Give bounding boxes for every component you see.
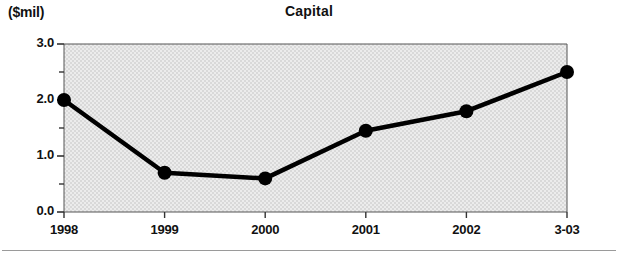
data-point-1998 (57, 93, 71, 107)
x-tick-label: 3-03 (527, 222, 607, 237)
x-tick-label: 2001 (326, 222, 406, 237)
capital-line-chart: ($mil) Capital 3.02.01.00.0 (0, 0, 618, 266)
data-point-1999 (158, 166, 172, 180)
y-axis-ticks (57, 44, 64, 212)
plot-background (64, 44, 567, 212)
data-point-2000 (258, 171, 272, 185)
y-tick-label: 2.0 (6, 91, 54, 106)
chart-page: ($mil) Capital 3.02.01.00.0 (0, 0, 618, 266)
x-tick-label: 2000 (225, 222, 305, 237)
y-tick-label: 3.0 (6, 35, 54, 50)
data-point-2001 (359, 124, 373, 138)
bottom-divider (2, 250, 616, 251)
x-tick-label: 1999 (125, 222, 205, 237)
x-axis-ticks (64, 212, 567, 218)
data-point-3-03 (560, 65, 574, 79)
y-tick-label: 1.0 (6, 147, 54, 162)
y-tick-label: 0.0 (6, 203, 54, 218)
data-point-2002 (459, 104, 473, 118)
x-tick-label: 2002 (426, 222, 506, 237)
x-tick-label: 1998 (24, 222, 104, 237)
